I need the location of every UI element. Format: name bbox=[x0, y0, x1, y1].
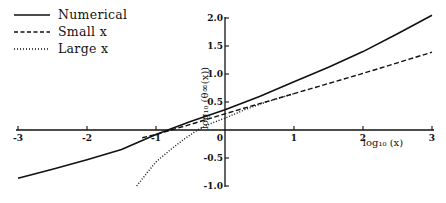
x-tick-label: 3 bbox=[429, 133, 435, 143]
y-tick-label: -1.0 bbox=[204, 181, 223, 191]
dashed-line-swatch-icon bbox=[14, 28, 50, 36]
x-tick-label: 1 bbox=[291, 133, 297, 143]
dotted-line-swatch-icon bbox=[14, 45, 50, 53]
y-tick-label: 2.0 bbox=[207, 13, 223, 23]
legend-label: Small x bbox=[58, 24, 107, 39]
x-tick-label: -2 bbox=[82, 133, 92, 143]
y-axis-label: log₁₀ (θ∞(x)) bbox=[199, 67, 210, 130]
x-tick-label: 0 bbox=[217, 133, 223, 143]
legend-label: Large x bbox=[58, 41, 108, 56]
x-axis-label: log₁₀ (x) bbox=[363, 137, 403, 148]
legend-label: Numerical bbox=[58, 7, 127, 22]
legend: Numerical Small x Large x bbox=[14, 6, 127, 57]
solid-line-swatch-icon bbox=[14, 11, 50, 19]
y-tick-label: 1.5 bbox=[207, 41, 223, 51]
x-tick-label: -3 bbox=[13, 133, 23, 143]
y-tick-label: -0.5 bbox=[204, 153, 223, 163]
legend-item-small-x: Small x bbox=[14, 23, 127, 40]
legend-item-numerical: Numerical bbox=[14, 6, 127, 23]
legend-item-large-x: Large x bbox=[14, 40, 127, 57]
